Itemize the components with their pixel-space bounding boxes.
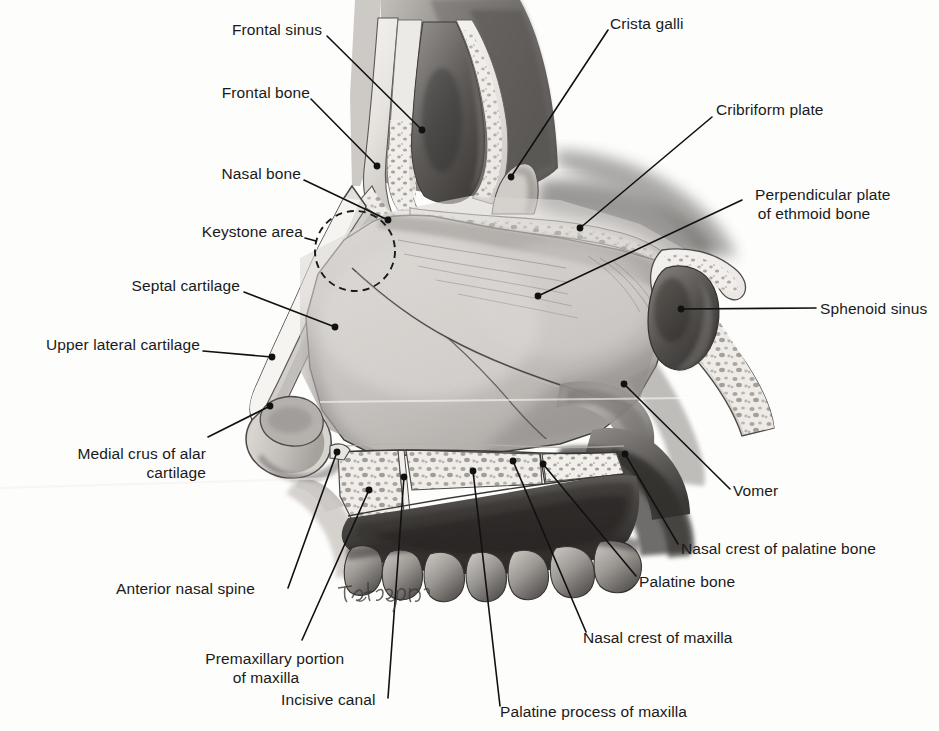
label-nasal-crest-of-palatine-bone: Nasal crest of palatine bone [681,540,876,559]
label-cribriform-plate: Cribriform plate [716,101,824,120]
label-anterior-nasal-spine: Anterior nasal spine [116,580,255,599]
label-palatine-process-of-maxilla: Palatine process of maxilla [500,703,687,722]
label-perpendicular-plate-of-ethmoid-bone: Perpendicular plateof ethmoid bone [714,167,914,243]
label-septal-cartilage: Septal cartilage [0,277,240,296]
label-crista-galli: Crista galli [610,15,684,34]
label-sphenoid-sinus: Sphenoid sinus [820,300,927,319]
label-nasal-bone: Nasal bone [0,165,301,184]
label-medial-crus-of-alar-cartilage: Medial crus of alarcartilage [0,426,206,502]
label-nasal-crest-of-maxilla: Nasal crest of maxilla [583,629,733,648]
anatomy-figure: Frontal sinus Frontal bone Nasal bone Ke… [0,0,939,731]
label-keystone-area: Keystone area [0,223,303,242]
label-frontal-sinus: Frontal sinus [0,21,322,40]
label-incisive-canal: Incisive canal [281,691,375,710]
label-frontal-bone: Frontal bone [0,84,310,103]
label-upper-lateral-cartilage: Upper lateral cartilage [0,336,200,355]
label-palatine-bone: Palatine bone [639,573,735,592]
label-vomer: Vomer [733,482,778,501]
premaxillary-portion-of-maxilla [338,450,404,520]
